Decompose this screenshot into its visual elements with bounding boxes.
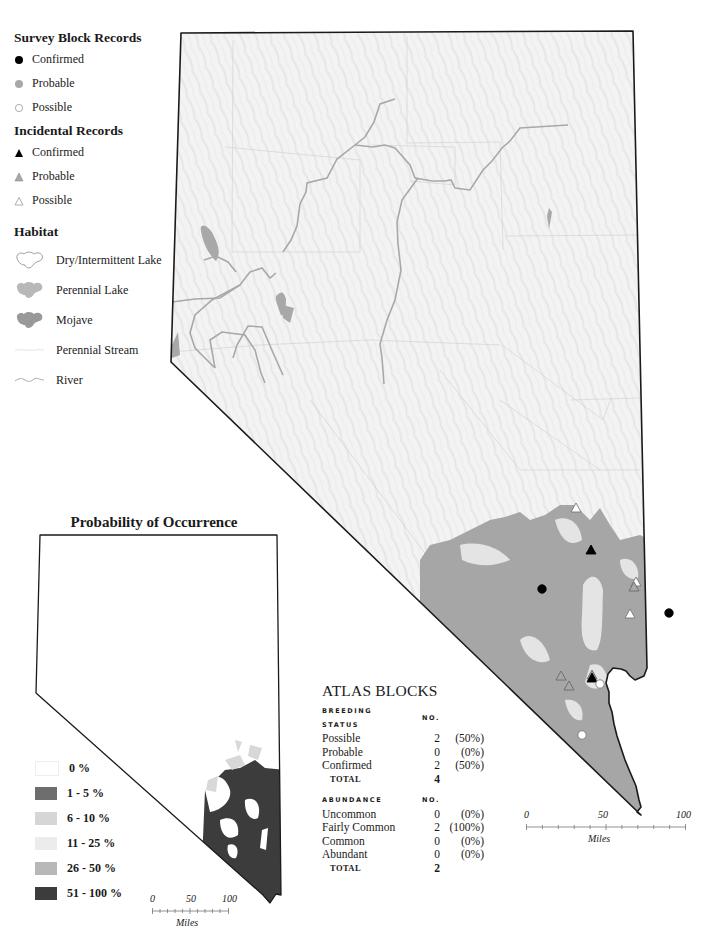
total-value: 2 bbox=[410, 862, 440, 876]
row-label: Fairly Common bbox=[322, 821, 410, 835]
river-icon bbox=[14, 375, 56, 385]
scale-tick-50: 50 bbox=[186, 893, 196, 904]
scale-tick-100: 100 bbox=[222, 893, 237, 904]
scale-tick-0: 0 bbox=[524, 809, 529, 820]
row-label: Possible bbox=[322, 732, 410, 746]
incidental-heading: Incidental Records bbox=[14, 123, 184, 139]
no-header: NO. bbox=[410, 794, 440, 808]
filled-circle-icon bbox=[14, 55, 32, 65]
prob-class-3: 11 - 25 % bbox=[35, 831, 122, 856]
table-row: Possible 2 (50%) bbox=[322, 732, 484, 746]
open-circle-icon bbox=[14, 103, 32, 113]
scale-tick-50: 50 bbox=[598, 809, 608, 820]
atlas-blocks-panel: ATLAS BLOCKS BREEDING STATUS NO. Possibl… bbox=[322, 682, 512, 875]
row-label: Uncommon bbox=[322, 808, 410, 822]
row-percent: (100%) bbox=[440, 821, 484, 835]
filled-triangle-icon bbox=[14, 148, 32, 158]
probability-legend: 0 % 1 - 5 % 6 - 10 % 11 - 25 % 26 - 50 %… bbox=[35, 756, 122, 906]
prob-label: 11 - 25 % bbox=[67, 836, 115, 851]
row-percent: (50%) bbox=[440, 732, 484, 746]
incidental-probable-marker bbox=[564, 681, 574, 690]
total-row: TOTAL 2 bbox=[322, 862, 484, 876]
row-label: Abundant bbox=[322, 848, 410, 862]
total-label: TOTAL bbox=[322, 773, 410, 787]
row-count: 2 bbox=[410, 821, 440, 835]
table-row: Confirmed 2 (50%) bbox=[322, 759, 484, 773]
row-count: 2 bbox=[410, 732, 440, 746]
legend-survey-possible: Possible bbox=[14, 100, 184, 115]
legend-label: Probable bbox=[32, 76, 75, 91]
prob-label: 1 - 5 % bbox=[67, 786, 104, 801]
legend-label: Confirmed bbox=[32, 52, 84, 67]
legend-label: River bbox=[56, 373, 83, 388]
legend-incidental-possible: Possible bbox=[14, 193, 184, 208]
abundance-header: ABUNDANCE bbox=[322, 794, 410, 808]
legend-label: Confirmed bbox=[32, 145, 84, 160]
dry-lake-icon bbox=[14, 249, 56, 271]
prob-label: 26 - 50 % bbox=[67, 861, 116, 876]
legend-incidental-confirmed: Confirmed bbox=[14, 145, 184, 160]
legend-label: Possible bbox=[32, 193, 72, 208]
survey-confirmed-marker bbox=[538, 585, 546, 593]
scale-unit: Miles bbox=[588, 833, 610, 844]
open-triangle-icon bbox=[14, 196, 32, 206]
legend-incidental-probable: Probable bbox=[14, 169, 184, 184]
incidental-probable-marker bbox=[556, 671, 566, 680]
legend-perennial-lake: Perennial Lake bbox=[14, 278, 184, 302]
row-label: Common bbox=[322, 835, 410, 849]
row-label: Confirmed bbox=[322, 759, 410, 773]
total-value: 4 bbox=[410, 773, 440, 787]
row-percent: (0%) bbox=[440, 746, 484, 760]
incidental-possible-marker bbox=[571, 503, 581, 512]
scale-tick-100: 100 bbox=[676, 809, 691, 820]
legend-label: Possible bbox=[32, 100, 72, 115]
legend-label: Probable bbox=[32, 169, 75, 184]
prob-label: 0 % bbox=[69, 761, 90, 776]
legend-label: Perennial Stream bbox=[56, 343, 138, 358]
prob-class-0: 0 % bbox=[35, 756, 122, 781]
total-row: TOTAL 4 bbox=[322, 773, 484, 787]
inset-scale-bar: 0 50 100 Miles bbox=[148, 893, 248, 933]
row-label: Probable bbox=[322, 746, 410, 760]
row-percent: (0%) bbox=[440, 835, 484, 849]
probability-title: Probability of Occurrence bbox=[9, 514, 299, 531]
legend: Survey Block Records Confirmed Probable … bbox=[14, 30, 184, 392]
swatch-0 bbox=[35, 761, 59, 776]
table-row: Probable 0 (0%) bbox=[322, 746, 484, 760]
row-count: 2 bbox=[410, 759, 440, 773]
breeding-status-table: BREEDING STATUS NO. Possible 2 (50%) Pro… bbox=[322, 705, 484, 786]
legend-river: River bbox=[14, 368, 184, 392]
scale-ruler bbox=[152, 907, 232, 915]
perennial-lake-icon bbox=[14, 279, 56, 301]
prob-label: 51 - 100 % bbox=[67, 886, 122, 901]
legend-label: Mojave bbox=[56, 313, 93, 328]
row-count: 0 bbox=[410, 746, 440, 760]
mojave-icon bbox=[14, 309, 56, 331]
legend-label: Dry/Intermittent Lake bbox=[56, 253, 162, 268]
legend-perennial-stream: Perennial Stream bbox=[14, 338, 184, 362]
breeding-status-header: BREEDING STATUS bbox=[322, 705, 410, 732]
table-row: Fairly Common 2 (100%) bbox=[322, 821, 484, 835]
swatch-3 bbox=[35, 837, 57, 850]
gray-triangle-icon bbox=[14, 172, 32, 182]
prob-class-4: 26 - 50 % bbox=[35, 856, 122, 881]
stream-icon bbox=[14, 345, 56, 355]
survey-possible-marker bbox=[596, 680, 604, 688]
atlas-blocks-title: ATLAS BLOCKS bbox=[322, 682, 512, 700]
scale-ruler bbox=[526, 823, 690, 831]
scale-tick-0: 0 bbox=[150, 893, 155, 904]
survey-block-heading: Survey Block Records bbox=[14, 30, 184, 46]
swatch-5 bbox=[35, 887, 57, 900]
habitat-heading: Habitat bbox=[14, 224, 184, 240]
legend-survey-probable: Probable bbox=[14, 76, 184, 91]
incidental-possible-marker bbox=[625, 609, 635, 618]
row-percent: (0%) bbox=[440, 808, 484, 822]
survey-confirmed-marker bbox=[665, 609, 673, 617]
no-header: NO. bbox=[410, 705, 440, 732]
prob-label: 6 - 10 % bbox=[67, 811, 110, 826]
breeding-header-row: BREEDING STATUS NO. bbox=[322, 705, 484, 732]
table-row: Common 0 (0%) bbox=[322, 835, 484, 849]
prob-class-1: 1 - 5 % bbox=[35, 781, 122, 806]
legend-label: Perennial Lake bbox=[56, 283, 128, 298]
prob-class-5: 51 - 100 % bbox=[35, 881, 122, 906]
